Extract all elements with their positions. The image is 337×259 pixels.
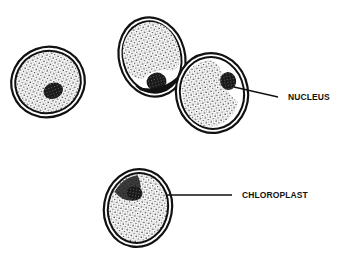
cell-4 — [98, 164, 179, 253]
nucleus-label: NUCLEUS — [288, 92, 330, 102]
cell-1 — [1, 36, 94, 127]
cell-wall-inner — [6, 42, 89, 123]
algae-cells-diagram — [0, 0, 337, 259]
chloroplast-label: CHLOROPLAST — [242, 190, 308, 200]
